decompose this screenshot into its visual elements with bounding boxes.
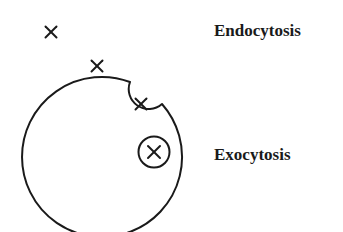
endocytosis-label: Endocytosis xyxy=(214,21,301,41)
particle-outside-near-icon xyxy=(92,61,103,72)
particle-in-vesicle-icon xyxy=(148,146,160,158)
cell-membrane xyxy=(22,77,182,232)
exocytosis-label: Exocytosis xyxy=(214,145,291,165)
diagram-canvas: Endocytosis Exocytosis xyxy=(0,0,343,232)
particle-outside-far-icon xyxy=(46,27,57,38)
